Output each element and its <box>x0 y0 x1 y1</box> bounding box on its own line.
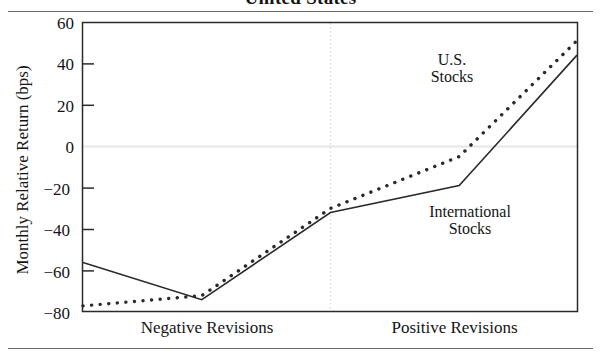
series-annotation-us-stocks-line1: U.S. <box>400 52 504 69</box>
x-category-label-negative-revisions: Negative Revisions <box>83 318 331 338</box>
series-annotation-us-stocks-line2: Stocks <box>400 69 504 86</box>
series-annotation-international-stocks-line2: Stocks <box>386 221 554 238</box>
series-annotation-us-stocks: U.S. Stocks <box>400 52 504 86</box>
series-annotation-international-stocks-line1: International <box>386 204 554 221</box>
series-annotation-international-stocks: International Stocks <box>386 204 554 238</box>
chart-figure: United States Monthly Relative Return (b… <box>0 0 601 359</box>
plot-area <box>0 0 601 359</box>
x-category-label-positive-revisions: Positive Revisions <box>331 318 578 338</box>
y-tick-marks <box>83 64 95 271</box>
